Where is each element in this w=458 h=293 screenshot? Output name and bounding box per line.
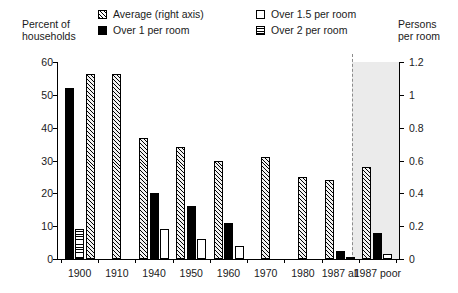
bar-1950-solid bbox=[187, 206, 196, 259]
solid-swatch-icon bbox=[98, 26, 107, 35]
y-axis-right-tick-label: 0.2 bbox=[409, 221, 449, 231]
y-axis-right-tick-label: 0.8 bbox=[409, 123, 449, 133]
bar-1970-hatch bbox=[261, 157, 270, 259]
bar-1987-all-hatch bbox=[325, 180, 334, 259]
y-axis-left-tick bbox=[53, 226, 58, 227]
x-axis-label-1987-poor: 1987 poor bbox=[337, 267, 417, 279]
bar-1987-all-white bbox=[346, 257, 355, 259]
bar-1960-solid bbox=[224, 223, 233, 259]
right-axis-caption-line1: Persons bbox=[398, 18, 440, 30]
bar-1960-hatch bbox=[214, 161, 223, 260]
right-axis-caption: Persons per room bbox=[398, 18, 440, 42]
x-axis-tick bbox=[135, 259, 136, 263]
x-axis-tick bbox=[359, 259, 360, 263]
legend-label-over-1: Over 1 per room bbox=[113, 25, 189, 36]
x-axis-tick bbox=[61, 259, 62, 263]
bar-1980-hatch bbox=[298, 177, 307, 259]
y-axis-left-tick-label: 60 bbox=[13, 57, 53, 67]
x-axis-tick bbox=[247, 259, 248, 263]
y-axis-left-tick-label: 0 bbox=[13, 254, 53, 264]
x-axis-tick bbox=[396, 259, 397, 263]
bar-1910-hatch bbox=[112, 74, 121, 260]
chart-legend: Average (right axis) Over 1 per room Ove… bbox=[98, 9, 398, 43]
legend-item-average: Average (right axis) bbox=[98, 9, 204, 20]
y-axis-right-tick bbox=[399, 128, 404, 129]
bar-1900-hlines bbox=[75, 229, 84, 259]
bar-1950-hatch bbox=[176, 147, 185, 259]
y-axis-left-tick bbox=[53, 95, 58, 96]
y-axis-right-tick bbox=[399, 226, 404, 227]
x-axis-tick bbox=[284, 259, 285, 263]
y-axis-right-tick-label: 0 bbox=[409, 254, 449, 264]
bar-1940-hatch bbox=[139, 138, 148, 259]
bar-1960-white bbox=[235, 246, 244, 259]
legend-item-over-2: Over 2 per room bbox=[256, 25, 347, 36]
hlines-swatch-icon bbox=[256, 26, 265, 35]
hatch-swatch-icon bbox=[98, 10, 107, 19]
y-axis-right-tick-label: 1 bbox=[409, 90, 449, 100]
bar-chart: Average (right axis) Over 1 per room Ove… bbox=[0, 0, 458, 293]
bar-1940-solid bbox=[150, 193, 159, 259]
y-axis-left-tick bbox=[53, 259, 58, 260]
y-axis-left-tick-label: 50 bbox=[13, 90, 53, 100]
bar-1900-hatch bbox=[86, 74, 95, 260]
y-axis-right-tick-label: 1.2 bbox=[409, 57, 449, 67]
bar-1987-all-solid bbox=[336, 251, 345, 259]
legend-label-over-1-5: Over 1.5 per room bbox=[271, 9, 356, 20]
bar-1950-white bbox=[197, 239, 206, 259]
y-axis-left-tick bbox=[53, 161, 58, 162]
y-axis-right-tick-label: 0.4 bbox=[409, 188, 449, 198]
y-axis-left-tick bbox=[53, 193, 58, 194]
legend-label-over-2: Over 2 per room bbox=[271, 25, 347, 36]
y-axis-right-tick bbox=[399, 259, 404, 260]
right-axis-caption-line2: per room bbox=[398, 30, 440, 42]
poor-shaded-region bbox=[352, 62, 399, 259]
legend-item-over-1: Over 1 per room bbox=[98, 25, 189, 36]
y-axis-left-tick bbox=[53, 62, 58, 63]
y-axis-left-tick bbox=[53, 128, 58, 129]
y-axis-left-tick-label: 10 bbox=[13, 221, 53, 231]
bar-1900-solid bbox=[65, 88, 74, 259]
y-axis-right-tick bbox=[399, 62, 404, 63]
white-swatch-icon bbox=[256, 10, 265, 19]
x-axis-tick bbox=[173, 259, 174, 263]
x-axis-tick bbox=[98, 259, 99, 263]
legend-item-over-1-5: Over 1.5 per room bbox=[256, 9, 356, 20]
y-axis-left-tick-label: 40 bbox=[13, 123, 53, 133]
left-axis-caption: Percent of households bbox=[22, 18, 76, 42]
bar-1987-poor-solid bbox=[373, 233, 382, 259]
y-axis-right-tick-label: 0.6 bbox=[409, 156, 449, 166]
y-axis-right-tick bbox=[399, 95, 404, 96]
y-axis-right-tick bbox=[399, 161, 404, 162]
left-axis-caption-line2: households bbox=[22, 30, 76, 42]
legend-label-average: Average (right axis) bbox=[113, 9, 204, 20]
x-axis-tick bbox=[322, 259, 323, 263]
y-axis-left-tick-label: 30 bbox=[13, 156, 53, 166]
x-axis bbox=[57, 259, 400, 260]
bar-1940-white bbox=[160, 229, 169, 259]
bar-1987-poor-hatch bbox=[362, 167, 371, 259]
y-axis-left-tick-label: 20 bbox=[13, 188, 53, 198]
bar-1987-poor-white bbox=[383, 254, 392, 259]
y-axis-right-tick bbox=[399, 193, 404, 194]
category-divider bbox=[352, 54, 353, 260]
left-axis-caption-line1: Percent of bbox=[22, 18, 76, 30]
plot-area: 0102030405060 00.20.40.60.811.2 19001910… bbox=[57, 62, 400, 259]
x-axis-tick bbox=[210, 259, 211, 263]
